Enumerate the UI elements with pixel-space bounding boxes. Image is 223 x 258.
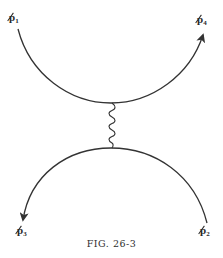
label-p4: p4 [197, 14, 207, 27]
feynman-diagram [0, 0, 223, 258]
subscript: 2 [206, 230, 210, 238]
subscript: 4 [203, 19, 207, 27]
label-p3: p3 [17, 225, 27, 238]
top-fermion-line [18, 29, 203, 103]
wavy-photon-line [109, 103, 115, 148]
label-p2: p2 [200, 225, 210, 238]
subscript: 1 [15, 17, 19, 25]
slashed-p-symbol: p [197, 14, 203, 25]
subscript: 3 [23, 230, 27, 238]
slashed-p-symbol: p [9, 12, 15, 23]
bottom-fermion-line [23, 148, 207, 223]
slashed-p-symbol: p [200, 225, 206, 236]
slashed-p-symbol: p [17, 225, 23, 236]
figure-caption: FIG. 26-3 [0, 238, 223, 249]
label-p1: p1 [9, 12, 19, 25]
